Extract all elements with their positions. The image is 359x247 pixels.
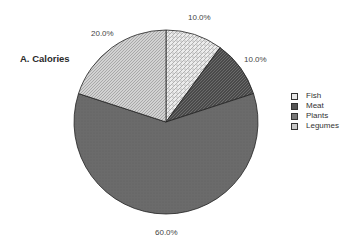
slice-label-legumes: 20.0% (91, 29, 114, 38)
legend: Fish Meat Plants Legumes (291, 91, 339, 131)
legend-item-plants: Plants (291, 111, 339, 121)
legend-item-legumes: Legumes (291, 121, 339, 131)
pie-slices (74, 30, 258, 214)
slice-label-fish: 10.0% (188, 13, 211, 22)
legend-label: Fish (306, 91, 321, 101)
meat-swatch-icon (291, 103, 298, 110)
legumes-swatch-icon (291, 123, 298, 130)
plants-swatch-icon (291, 113, 298, 120)
fish-swatch-icon (291, 93, 298, 100)
legend-item-meat: Meat (291, 101, 339, 111)
slice-label-meat: 10.0% (244, 55, 267, 64)
legend-label: Meat (306, 101, 324, 111)
panel-title: A. Calories (20, 53, 70, 64)
legend-label: Plants (306, 111, 328, 121)
slice-label-plants: 60.0% (155, 228, 178, 237)
legend-item-fish: Fish (291, 91, 339, 101)
legend-label: Legumes (306, 121, 339, 131)
